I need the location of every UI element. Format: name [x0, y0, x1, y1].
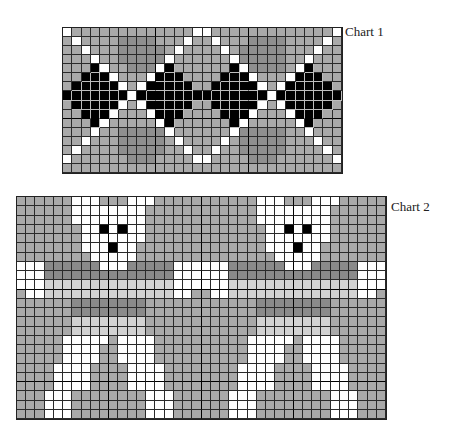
grid-cell: [368, 364, 377, 373]
grid-cell: [305, 82, 314, 91]
grid-cell: [63, 271, 72, 280]
grid-cell: [192, 206, 201, 215]
grid-cell: [192, 308, 201, 317]
grid-cell: [156, 128, 165, 137]
grid-cell: [137, 373, 146, 382]
grid-cell: [17, 373, 26, 382]
grid-cell: [358, 336, 367, 345]
grid-cell: [128, 299, 137, 308]
grid-cell: [192, 373, 201, 382]
grid-cell: [26, 345, 35, 354]
grid-cell: [147, 164, 156, 173]
grid-cell: [323, 128, 332, 137]
grid-cell: [72, 243, 81, 252]
grid-cell: [221, 137, 230, 146]
grid-cell: [358, 327, 367, 336]
grid-cell: [63, 197, 72, 206]
grid-cell: [312, 354, 321, 363]
grid-cell: [211, 216, 220, 225]
grid-cell: [91, 64, 100, 73]
grid-cell: [128, 290, 137, 299]
grid-cell: [331, 234, 340, 243]
grid-cell: [340, 290, 349, 299]
grid-cell: [277, 28, 286, 37]
grid-cell: [230, 164, 239, 173]
grid-cell: [192, 225, 201, 234]
grid-cell: [146, 308, 155, 317]
grid-cell: [17, 354, 26, 363]
grid-cell: [35, 262, 44, 271]
grid-cell: [331, 327, 340, 336]
grid-cell: [63, 128, 72, 137]
grid-cell: [294, 280, 303, 289]
grid-cell: [321, 234, 330, 243]
grid-cell: [156, 101, 165, 110]
grid-cell: [118, 290, 127, 299]
grid-cell: [203, 28, 212, 37]
grid-cell: [45, 280, 54, 289]
grid-cell: [349, 327, 358, 336]
grid-cell: [266, 382, 275, 391]
grid-cell: [248, 373, 257, 382]
grid-cell: [17, 336, 26, 345]
grid-cell: [240, 55, 249, 64]
grid-cell: [331, 216, 340, 225]
grid-cell: [258, 28, 267, 37]
grid-cell: [147, 110, 156, 119]
grid-cell: [312, 197, 321, 206]
grid-cell: [358, 345, 367, 354]
grid-cell: [193, 37, 202, 46]
grid-cell: [72, 317, 81, 326]
grid-cell: [349, 308, 358, 317]
grid-cell: [192, 354, 201, 363]
grid-cell: [248, 401, 257, 410]
grid-cell: [109, 206, 118, 215]
grid-cell: [54, 382, 63, 391]
grid-cell: [54, 243, 63, 252]
grid-cell: [137, 317, 146, 326]
grid-cell: [45, 253, 54, 262]
grid-cell: [175, 146, 184, 155]
grid-cell: [312, 308, 321, 317]
grid-cell: [257, 253, 266, 262]
grid-cell: [175, 55, 184, 64]
grid-cell: [82, 64, 91, 73]
grid-cell: [137, 308, 146, 317]
grid-cell: [82, 364, 91, 373]
grid-cell: [323, 55, 332, 64]
grid-cell: [146, 271, 155, 280]
grid-cell: [331, 280, 340, 289]
grid-cell: [91, 299, 100, 308]
grid-cell: [45, 234, 54, 243]
grid-cell: [368, 410, 377, 419]
grid-cell: [331, 290, 340, 299]
grid-cell: [82, 216, 91, 225]
grid-cell: [165, 206, 174, 215]
grid-cell: [212, 137, 221, 146]
grid-cell: [238, 243, 247, 252]
grid-cell: [285, 299, 294, 308]
grid-cell: [358, 206, 367, 215]
grid-cell: [26, 243, 35, 252]
grid-cell: [26, 216, 35, 225]
grid-cell: [221, 119, 230, 128]
grid-cell: [268, 101, 277, 110]
grid-cell: [91, 73, 100, 82]
grid-cell: [165, 382, 174, 391]
grid-cell: [109, 336, 118, 345]
grid-cell: [321, 382, 330, 391]
grid-cell: [333, 164, 342, 173]
grid-cell: [82, 299, 91, 308]
grid-cell: [137, 155, 146, 164]
grid-cell: [349, 354, 358, 363]
grid-cell: [175, 46, 184, 55]
grid-cell: [165, 216, 174, 225]
grid-cell: [82, 234, 91, 243]
grid-cell: [72, 327, 81, 336]
grid-cell: [314, 110, 323, 119]
grid-cell: [183, 262, 192, 271]
grid-cell: [203, 146, 212, 155]
grid-cell: [221, 82, 230, 91]
grid-cell: [54, 345, 63, 354]
grid-cell: [174, 243, 183, 252]
